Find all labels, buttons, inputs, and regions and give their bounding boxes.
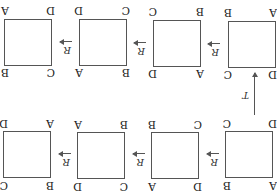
vertex-label: D <box>46 5 55 16</box>
vertex-label: B <box>148 119 156 130</box>
vertex-label: D <box>74 5 83 16</box>
vertex-label: B <box>46 180 54 191</box>
r-arrow-label: R <box>211 47 219 58</box>
vertex-label: D <box>268 118 277 129</box>
vertex-label: C <box>122 5 130 16</box>
vertex-label: A <box>1 5 9 16</box>
r-arrow <box>208 43 220 44</box>
vertex-label: C <box>47 67 55 78</box>
vertex-label: D <box>0 118 8 129</box>
vertex-label: A <box>269 180 277 191</box>
square-bottom-4 <box>4 19 52 66</box>
square-top-3 <box>77 132 125 179</box>
vertex-label: A <box>74 119 82 130</box>
vertex-label: D <box>193 181 202 192</box>
r-arrow <box>134 42 146 43</box>
vertex-label: A <box>269 7 277 18</box>
vertex-label: D <box>268 69 277 80</box>
vertex-label: B <box>224 7 232 18</box>
square-bottom-3 <box>79 19 127 66</box>
vertex-label: A <box>46 118 54 129</box>
vertex-label: D <box>73 181 82 192</box>
vertex-label: B <box>196 6 204 17</box>
r-arrow <box>60 41 72 42</box>
vertex-label: C <box>194 119 202 130</box>
vertex-label: B <box>1 67 9 78</box>
r-arrow <box>59 153 71 154</box>
square-top-1 <box>225 131 273 178</box>
r-arrow <box>133 153 145 154</box>
t-arrow <box>254 73 255 115</box>
t-arrow-label: T <box>242 90 249 101</box>
vertex-label: A <box>148 181 156 192</box>
vertex-label: B <box>122 67 130 78</box>
square-top-2 <box>151 132 199 179</box>
vertex-label: C <box>120 181 128 192</box>
vertex-label: A <box>196 68 204 79</box>
vertex-label: B <box>120 119 128 130</box>
vertex-label: D <box>148 68 157 79</box>
vertex-label: C <box>149 6 157 17</box>
vertex-label: B <box>223 180 231 191</box>
vertex-label: C <box>223 118 231 129</box>
r-arrow-label: R <box>136 157 144 168</box>
vertex-label: C <box>224 69 232 80</box>
square-top-4 <box>3 131 51 178</box>
vertex-label: A <box>75 67 83 78</box>
r-arrow <box>207 153 219 154</box>
square-bottom-2 <box>153 20 201 67</box>
square-bottom-1 <box>228 21 276 68</box>
square-symmetry-diagram: A B D C R D A C B R C D B A R B C A D T … <box>0 0 277 195</box>
r-arrow-label: R <box>210 157 218 168</box>
r-arrow-label: R <box>63 45 71 56</box>
r-arrow-label: R <box>62 157 70 168</box>
r-arrow-label: R <box>137 46 145 57</box>
vertex-label: C <box>0 180 8 191</box>
